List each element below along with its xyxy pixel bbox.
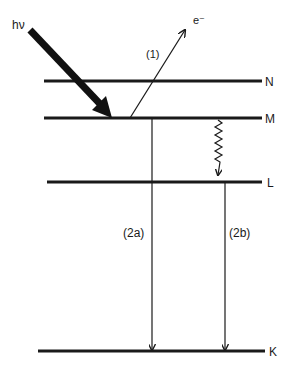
- wavy-transition-arrow: [215, 120, 222, 175]
- level-n-label: N: [265, 75, 274, 89]
- energy-level-diagram: N M L K hν e⁻ (1) (2a) (2b): [0, 0, 293, 372]
- electron-label: e⁻: [193, 14, 205, 26]
- electron-ejection-arrow: [130, 30, 185, 118]
- transition-2b-label: (2b): [229, 226, 250, 240]
- transition-2a-label: (2a): [123, 226, 144, 240]
- process-1-label: (1): [146, 48, 159, 60]
- photon-label: hν: [12, 18, 25, 32]
- photon-arrow: [30, 30, 112, 118]
- level-m-label: M: [265, 112, 275, 126]
- level-k-label: K: [269, 345, 277, 359]
- level-m: M: [44, 112, 275, 126]
- level-l: L: [47, 176, 274, 190]
- level-k: K: [38, 345, 277, 359]
- level-l-label: L: [267, 176, 274, 190]
